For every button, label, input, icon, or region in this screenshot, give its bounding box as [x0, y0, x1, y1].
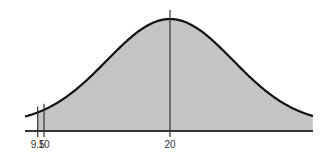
- tick-labels: 9.51020: [31, 139, 176, 150]
- shaded-area: [38, 19, 313, 131]
- normal-curve-chart: 9.51020: [0, 0, 330, 161]
- tick-label: 20: [164, 139, 176, 150]
- tick-label: 10: [38, 139, 50, 150]
